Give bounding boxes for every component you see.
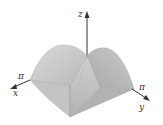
y-arrow-icon [143,95,150,101]
surface [30,45,134,117]
z-axis [85,11,90,60]
y-axis-tick-pi: π [138,82,146,92]
x-axis-label: x [13,88,18,98]
surface-plot: z π x π y [0,0,163,125]
z-arrow-icon [85,11,90,18]
x-axis-tick-pi: π [17,71,25,81]
z-axis-label: z [77,9,83,19]
y-axis-label: y [138,102,145,112]
